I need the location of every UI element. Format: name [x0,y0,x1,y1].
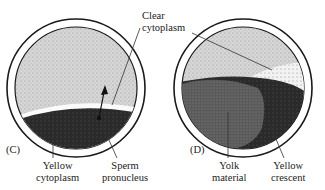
label-line: Yellow [271,160,305,172]
label-sperm-pronucleus: Sperm pronucleus [102,160,148,184]
panel-label-c: (C) [6,144,20,156]
label-yolk-material: Yolk material [212,160,246,184]
egg-d [174,19,312,160]
label-line: crescent [271,172,305,184]
label-line: cytoplasm [36,172,79,184]
label-line: material [212,172,246,184]
label-line: Yolk [212,160,246,172]
label-line: pronucleus [102,172,148,184]
label-line: cytoplasm [142,22,185,34]
label-line: Yellow [36,160,79,172]
label-clear-cytoplasm: Clear cytoplasm [142,10,185,34]
label-line: Sperm [102,160,148,172]
label-yellow-cytoplasm: Yellow cytoplasm [36,160,79,184]
label-line: Clear [142,10,185,22]
label-yellow-crescent: Yellow crescent [271,160,305,184]
egg-c [7,19,145,160]
panel-label-d: (D) [190,144,205,156]
